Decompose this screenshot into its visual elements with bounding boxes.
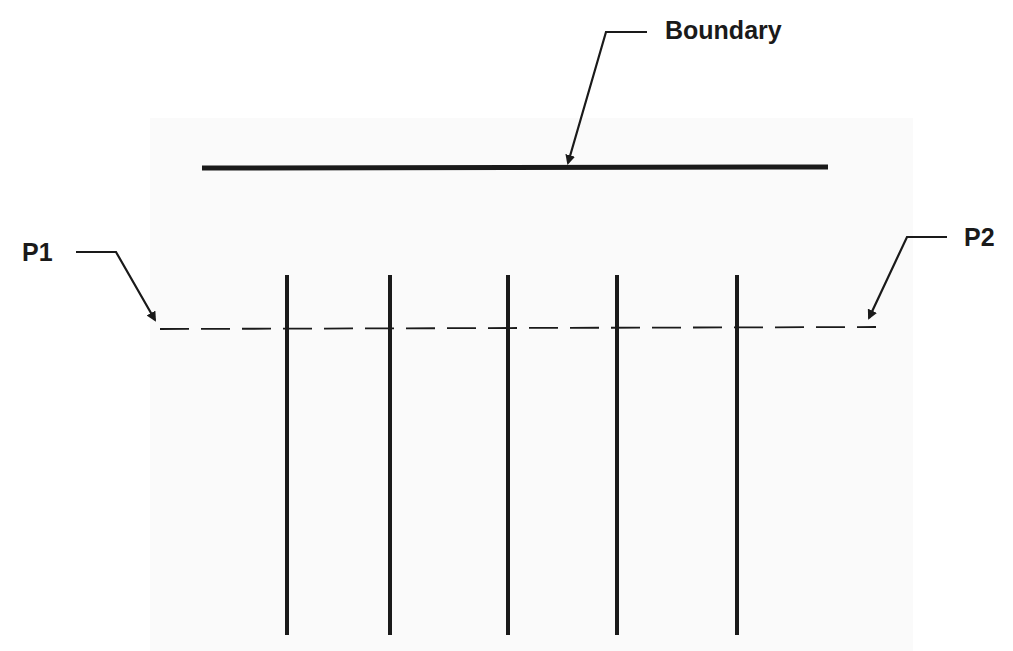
boundary-label: Boundary [665,18,782,43]
diagram-svg [0,0,1013,651]
p2-label: P2 [964,225,995,250]
p1-arrow-icon [76,252,155,320]
vertical-lines [287,275,737,635]
p1-p2-dashed-line [160,327,876,329]
p1-label: P1 [22,240,53,265]
diagram-canvas: Boundary P1 P2 [0,0,1013,651]
boundary-line [202,167,828,168]
boundary-arrow-icon [568,32,647,163]
p2-arrow-icon [869,237,947,318]
